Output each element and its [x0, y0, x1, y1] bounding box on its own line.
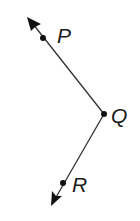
- point-q: [101, 111, 107, 117]
- label-p: P: [57, 25, 71, 46]
- ray-qp-arrowhead-icon: [27, 17, 41, 31]
- label-r: R: [72, 174, 87, 195]
- point-r: [60, 180, 66, 186]
- label-q: Q: [111, 105, 127, 126]
- ray-qr-arrowhead-icon: [51, 191, 62, 206]
- point-p: [40, 35, 46, 41]
